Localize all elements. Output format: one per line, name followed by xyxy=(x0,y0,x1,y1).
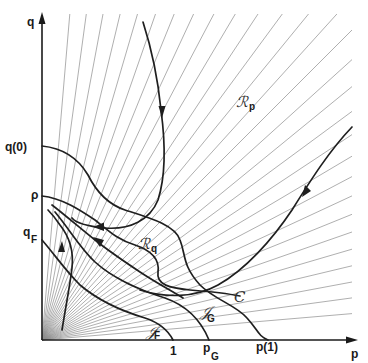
p-axis-label: p xyxy=(351,347,358,361)
ray xyxy=(42,14,337,340)
ray xyxy=(42,196,352,340)
p-axis-arrowhead-icon xyxy=(346,337,358,344)
pG-label: p xyxy=(203,341,210,355)
qF-sub-label: F xyxy=(31,234,37,245)
Rp-sub-label: p xyxy=(249,101,255,112)
rho-label: ρ xyxy=(31,188,38,202)
qF-label: q xyxy=(23,225,30,239)
ray xyxy=(42,60,352,340)
ray xyxy=(42,87,352,340)
p1-label: p(1) xyxy=(256,340,278,354)
ray xyxy=(42,135,352,340)
Rq-label: ℛ xyxy=(138,235,151,253)
JG-sub-label: G xyxy=(207,313,215,324)
top-trajectory xyxy=(72,22,164,228)
ray xyxy=(42,177,352,340)
right-trajectory xyxy=(140,127,352,295)
axes xyxy=(39,12,359,344)
q-axis-label: q xyxy=(27,15,34,29)
JF-sub-label: F xyxy=(154,330,160,341)
arrow-down-icon xyxy=(159,106,166,118)
trajectory-arrows xyxy=(58,106,311,252)
q0-label: q(0) xyxy=(5,140,27,154)
arrow-up-icon xyxy=(58,241,65,252)
ray xyxy=(42,14,309,340)
q-axis-arrowhead-icon xyxy=(39,12,46,24)
ray xyxy=(42,14,258,340)
Rp-label: ℛ xyxy=(236,93,249,111)
Rq-sub-label: q xyxy=(151,243,157,254)
ray xyxy=(42,14,86,340)
ray xyxy=(42,249,352,340)
pG-sub-label: G xyxy=(211,351,219,362)
one-label: 1 xyxy=(170,344,177,358)
C-label: C xyxy=(234,288,246,306)
phase-plane-diagram: q p q(0) ρ q F 1 p G p(1) ℛ p ℛ q C 𝒥 G … xyxy=(0,0,368,363)
ray xyxy=(42,14,70,340)
ray xyxy=(42,314,352,340)
ray xyxy=(42,14,103,340)
